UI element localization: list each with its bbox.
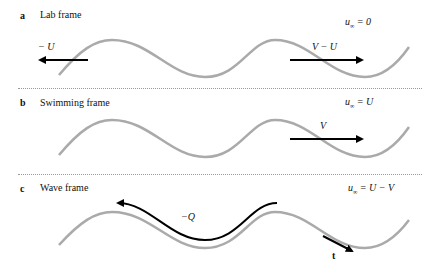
diagram-canvas (0, 0, 435, 267)
wave-a (59, 40, 409, 77)
tangent-arrow-t (323, 236, 352, 251)
